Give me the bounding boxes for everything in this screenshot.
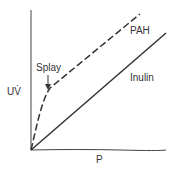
chart-canvas [0,0,178,171]
pah-label: PAH [130,26,150,36]
x-axis-label: P [96,155,103,165]
x-axis [31,150,166,151]
inulin-label: Inulin [130,73,154,83]
inulin-line [31,33,166,150]
pah-line [31,14,140,150]
splay-label: Splay [36,63,61,73]
y-axis-label: UV̇ [7,87,21,97]
